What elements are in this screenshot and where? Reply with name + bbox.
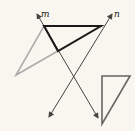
geometry-figure: m n bbox=[0, 0, 135, 131]
small-right-triangle bbox=[102, 76, 130, 124]
diagram-canvas: m n bbox=[0, 0, 135, 131]
gray-triangle bbox=[16, 26, 58, 75]
black-triangle bbox=[44, 26, 101, 51]
label-n: n bbox=[114, 9, 120, 19]
label-m: m bbox=[41, 9, 50, 19]
